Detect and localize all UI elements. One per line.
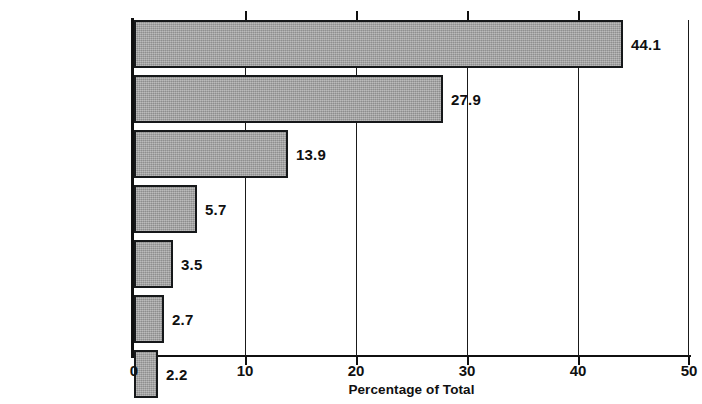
bar-row: Port Everglades 27.9 bbox=[134, 75, 689, 123]
bar[interactable] bbox=[134, 75, 443, 123]
xtick-label-0: 0 bbox=[130, 362, 138, 379]
bar[interactable] bbox=[134, 185, 197, 233]
x-axis-title: Percentage of Total bbox=[134, 382, 689, 397]
plot-area: Miami 44.1 Port Everglades 27.9 Port Can… bbox=[134, 20, 689, 356]
bar-row bbox=[134, 308, 689, 356]
tick-top-20 bbox=[356, 11, 358, 20]
bar-value-label: 3.5 bbox=[181, 256, 202, 273]
bar-chart-figure: Miami 44.1 Port Everglades 27.9 Port Can… bbox=[0, 0, 702, 404]
tick-top-30 bbox=[467, 11, 469, 20]
bar[interactable] bbox=[134, 20, 623, 68]
bar-value-label: 44.1 bbox=[631, 36, 661, 53]
xtick-label-40: 40 bbox=[570, 362, 587, 379]
bar-value-label: 27.9 bbox=[451, 91, 481, 108]
bar-row: Port Canaveral 13.9 bbox=[134, 130, 689, 178]
xtick-label-30: 30 bbox=[459, 362, 476, 379]
tick-top-10 bbox=[245, 11, 247, 20]
xtick-label-20: 20 bbox=[348, 362, 365, 379]
bar-row: Miami 44.1 bbox=[134, 20, 689, 68]
xtick-label-50: 50 bbox=[681, 362, 698, 379]
tick-top-40 bbox=[578, 11, 580, 20]
bar[interactable] bbox=[134, 240, 173, 288]
bar-value-label: 5.7 bbox=[205, 201, 226, 218]
xtick-label-10: 10 bbox=[237, 362, 254, 379]
bar-row: Key West 3.5 bbox=[134, 240, 689, 288]
bar-value-label: 13.9 bbox=[296, 146, 326, 163]
bar-value-label: 2.2 bbox=[166, 366, 187, 383]
bar[interactable] bbox=[134, 130, 288, 178]
bar-row: St. Petersburg 5.7 bbox=[134, 185, 689, 233]
